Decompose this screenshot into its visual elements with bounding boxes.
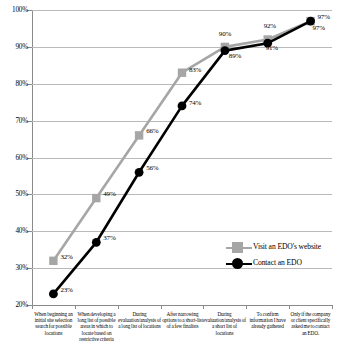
- data-point-marker: [49, 290, 58, 299]
- line-chart: 100%90%80%70%60%50%40%30%20% When beginn…: [0, 0, 340, 361]
- legend-marker-circle: [232, 258, 243, 269]
- series-line-1: [53, 21, 310, 261]
- data-value-label: 90%: [219, 30, 231, 38]
- data-value-label: 32%: [60, 253, 72, 261]
- data-value-label: 83%: [189, 66, 201, 74]
- data-point-marker: [92, 194, 100, 202]
- data-value-label: 92%: [264, 22, 276, 30]
- data-point-marker: [178, 102, 187, 111]
- legend-label-contact-edo: Contact an EDO: [253, 258, 302, 268]
- legend-item-contact-edo[interactable]: Contact an EDO: [222, 256, 334, 272]
- legend-item-visit-edo-website[interactable]: Visit an EDO's website: [222, 240, 334, 256]
- data-value-label: 23%: [60, 286, 72, 294]
- data-point-marker: [178, 69, 186, 77]
- series-plot: [0, 0, 340, 361]
- data-value-label: 89%: [229, 52, 241, 60]
- data-value-label: 56%: [146, 164, 158, 172]
- data-value-label: 37%: [103, 234, 115, 242]
- data-value-label: 49%: [103, 190, 115, 198]
- data-value-label: 66%: [146, 127, 158, 135]
- data-point-marker: [135, 131, 143, 139]
- data-value-label: 97%: [313, 24, 325, 32]
- data-value-label: 97%: [318, 13, 330, 21]
- legend: Visit an EDO's website Contact an EDO: [222, 240, 334, 272]
- legend-marker-square: [232, 242, 243, 253]
- data-point-marker: [49, 257, 57, 265]
- data-point-marker: [135, 168, 144, 177]
- data-value-label: 91%: [266, 44, 278, 52]
- data-point-marker: [92, 238, 101, 247]
- data-value-label: 74%: [189, 99, 201, 107]
- legend-label-visit-edo-website: Visit an EDO's website: [253, 242, 321, 252]
